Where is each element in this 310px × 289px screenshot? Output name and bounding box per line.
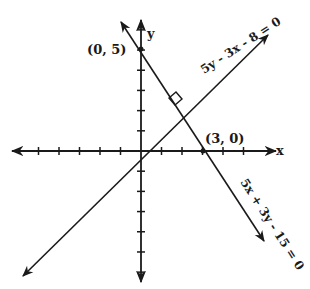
point-0-5 [139,47,144,52]
point-3-0 [201,149,206,154]
x-axis [12,147,276,155]
point-label-3-0: (3, 0) [205,131,244,146]
point-label-0-5: (0, 5) [87,42,126,57]
coordinate-diagram: y x (0, 5) (3, 0) 5y - 3x - 8 = 0 5x + 3… [0,0,310,289]
x-axis-label: x [276,143,284,158]
equation-label-line1: 5y - 3x - 8 = 0 [198,14,283,76]
y-axis-label: y [146,26,155,41]
line-5y-3x-8 [23,35,268,276]
equation-label-line2: 5x + 3y - 15 = 0 [237,176,306,273]
